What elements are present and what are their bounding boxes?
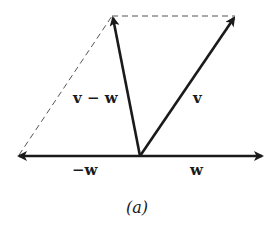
label-w: w (190, 163, 203, 178)
label-v-minus-w: v − w (73, 91, 118, 106)
vector-diagram (0, 0, 280, 228)
label-neg-w: −w (72, 163, 97, 178)
label-v: v (193, 91, 202, 106)
figure-caption: (a) (126, 200, 148, 216)
vector-v-minus-w (113, 18, 140, 156)
vector-v (140, 18, 234, 156)
dashed-left-line (19, 16, 112, 155)
